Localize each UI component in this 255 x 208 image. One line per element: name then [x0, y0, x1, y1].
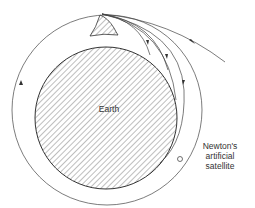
arrow-icon [19, 80, 23, 85]
orbit-diagram [0, 0, 255, 208]
satellite-label-line-2: artificial [190, 151, 250, 161]
arrow-icon [165, 54, 168, 59]
arrow-icon [146, 40, 149, 45]
earth [35, 47, 177, 189]
satellite-label-line-3: satellite [190, 161, 250, 171]
satellite-icon [178, 157, 183, 162]
satellite-label-line-1: Newton's [190, 141, 250, 151]
earth-label: Earth [92, 104, 126, 114]
diagram: Earth Newton's artificial satellite [0, 0, 255, 208]
mountain [90, 15, 118, 36]
